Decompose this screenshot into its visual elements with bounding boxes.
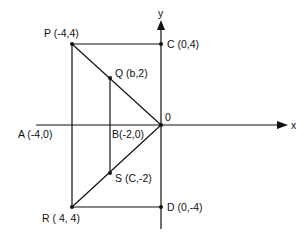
label-B: B(-2,0): [112, 128, 144, 140]
origin-label: 0: [165, 111, 171, 123]
segment-PO: [72, 44, 161, 125]
point-Q: [108, 76, 112, 80]
point-D: [159, 205, 163, 209]
point-O: [159, 123, 163, 127]
x-axis-arrow-icon: [277, 121, 288, 129]
point-S: [108, 171, 112, 175]
point-R: [70, 205, 74, 209]
coordinate-diagram: y x 0 P (-4,4) C (0,4) Q (b,2) A (-4,0) …: [0, 0, 303, 235]
y-axis-arrow-icon: [157, 20, 165, 30]
label-R: R ( 4, 4): [42, 212, 80, 224]
x-axis-label: x: [291, 119, 297, 131]
label-S: S (C,-2): [115, 172, 152, 184]
label-Q: Q (b,2): [115, 67, 148, 79]
label-A: A (-4,0): [18, 128, 52, 140]
label-D: D (0,-4): [167, 201, 203, 213]
point-P: [70, 42, 74, 46]
point-C: [159, 42, 163, 46]
label-P: P (-4,4): [44, 27, 79, 39]
label-C: C (0,4): [167, 38, 199, 50]
y-axis-label: y: [158, 7, 164, 19]
